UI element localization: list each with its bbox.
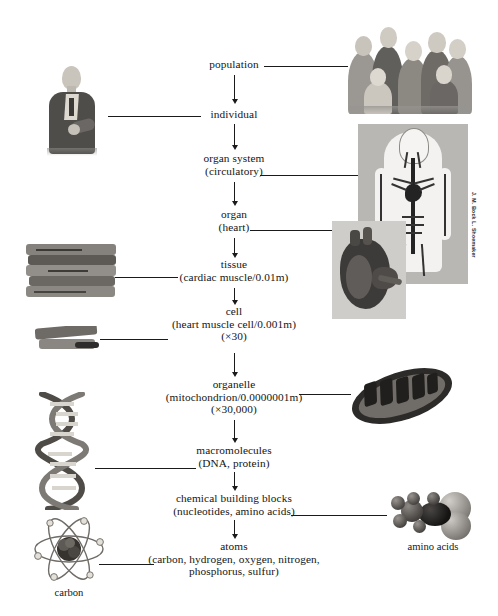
arrow-organ-to-tissue	[230, 238, 239, 258]
vessel-abdominal-branch	[402, 216, 424, 218]
atom-sphere-small	[413, 520, 426, 533]
person-head	[355, 36, 372, 56]
atom-sphere-small	[391, 496, 405, 510]
cell-branch	[75, 342, 99, 348]
image-heart-muscle-cell	[35, 326, 100, 354]
leader-cell	[100, 339, 168, 340]
ground-shadow	[349, 106, 469, 114]
arrow-chemical-building-blocks-to-atoms	[230, 520, 239, 539]
arrow-population-to-individual	[230, 75, 239, 104]
leader-organ	[250, 230, 332, 231]
image-amino-acid-molecule	[385, 492, 481, 540]
muscle-fibre	[29, 276, 115, 286]
leader-population	[264, 66, 348, 67]
image-heart	[332, 221, 406, 319]
arrow-tissue-to-cell	[230, 288, 239, 305]
muscle-striation	[36, 249, 82, 251]
image-cardiac-muscle-tissue	[26, 244, 118, 302]
image-single-person	[38, 62, 106, 158]
leader-organelle	[299, 394, 351, 395]
heart-vessel-stub	[363, 227, 372, 245]
mitochondrion-cristae	[380, 378, 393, 407]
leader-macromolecules	[95, 468, 196, 469]
caption-amino-acids: amino acids	[385, 541, 481, 552]
ground-shadow	[47, 148, 97, 156]
mitochondrion-cristae	[412, 373, 425, 401]
image-dna-double-helix	[28, 392, 98, 510]
person-tie	[69, 98, 74, 116]
person-illustration	[38, 62, 106, 158]
photo-credit: J. M. Bock L. Shoemaker	[471, 192, 477, 258]
leader-organ-system	[260, 175, 358, 176]
person-head	[449, 39, 466, 59]
atom-icon	[32, 512, 106, 586]
aorta	[411, 158, 415, 254]
figure-canvas: population individual organ system (circ…	[0, 0, 498, 616]
image-carbon-atom	[32, 512, 106, 586]
caption-carbon: carbon	[32, 587, 106, 598]
heart-vessel-stub	[350, 230, 360, 246]
dna-helix-icon	[28, 392, 98, 510]
person-head	[436, 65, 452, 84]
vessel-abdominal-branch	[404, 232, 422, 234]
arrow-individual-to-organ-system	[230, 124, 239, 150]
cell-body-upper	[35, 326, 97, 340]
mitochondrion-cristae	[364, 381, 377, 408]
arrow-organ-system-to-organ	[230, 182, 239, 206]
muscle-fibre	[28, 255, 116, 265]
heart-ventricle-highlight	[346, 255, 372, 299]
leader-chemical-building-blocks	[291, 515, 387, 516]
leader-atoms	[99, 564, 154, 565]
arrow-cell-to-organelle	[230, 353, 239, 377]
leader-individual	[108, 116, 201, 117]
image-group-of-people	[345, 14, 473, 114]
atom-sphere-small	[427, 492, 440, 505]
mitochondrion-cristae	[427, 372, 438, 395]
atom-sphere-small	[407, 492, 420, 505]
vessel-arm-right	[444, 174, 446, 236]
people-illustration	[345, 14, 473, 114]
person-head	[380, 27, 397, 48]
muscle-striation	[48, 270, 88, 272]
person-head	[370, 68, 386, 86]
image-mitochondrion	[348, 366, 456, 428]
mitochondrion-cristae	[396, 376, 409, 405]
muscle-striation	[34, 291, 86, 293]
leader-tissue	[115, 277, 178, 278]
arrow-organelle-to-macromolecules	[230, 420, 239, 443]
person-hand	[68, 124, 80, 135]
arrow-macromolecules-to-chemical-building-blocks	[230, 472, 239, 491]
person-head	[405, 41, 422, 61]
atom-sphere-small	[393, 514, 407, 528]
person-head	[428, 32, 446, 53]
